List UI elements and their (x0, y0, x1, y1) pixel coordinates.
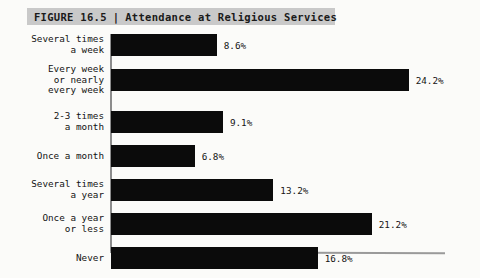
bar-value-label: 13.2% (280, 185, 308, 196)
category-label: Never (76, 253, 104, 264)
chart-row: Once a month 6.8% (0, 145, 480, 167)
chart-row: Several times a year 13.2% (0, 179, 480, 201)
chart-row: Every week or nearly every week 24.2% (0, 69, 480, 91)
bar (111, 145, 195, 167)
category-label: Once a year or less (42, 213, 104, 234)
bar-value-label: 16.8% (325, 253, 353, 264)
bar (111, 69, 409, 91)
chart-plot-area: Several times a week 8.6% Every week or … (0, 32, 480, 256)
chart-row: Once a year or less 21.2% (0, 213, 480, 235)
figure-title-band: FIGURE 16.5 | Attendance at Religious Se… (27, 8, 335, 25)
bar (111, 179, 273, 201)
chart-row: Never 16.8% (0, 247, 480, 269)
bar-value-label: 21.2% (379, 219, 407, 230)
bar (111, 34, 217, 56)
bar (111, 111, 223, 133)
bar-value-label: 8.6% (224, 40, 246, 51)
bar-value-label: 24.2% (416, 75, 444, 86)
category-label: 2-3 times a month (54, 111, 104, 132)
category-label: Every week or nearly every week (48, 64, 104, 96)
bar-value-label: 9.1% (230, 117, 252, 128)
category-label: Once a month (37, 151, 104, 162)
figure-number: FIGURE 16.5 (34, 11, 107, 23)
chart-row: 2-3 times a month 9.1% (0, 111, 480, 133)
title-separator: | (113, 11, 119, 23)
figure-title: Attendance at Religious Services (125, 11, 337, 23)
bar-value-label: 6.8% (202, 151, 224, 162)
figure-page: FIGURE 16.5 | Attendance at Religious Se… (0, 0, 480, 278)
chart-row: Several times a week 8.6% (0, 34, 480, 56)
bar (111, 213, 372, 235)
category-label: Several times a week (31, 34, 104, 55)
category-label: Several times a year (31, 179, 104, 200)
bar (111, 247, 318, 269)
